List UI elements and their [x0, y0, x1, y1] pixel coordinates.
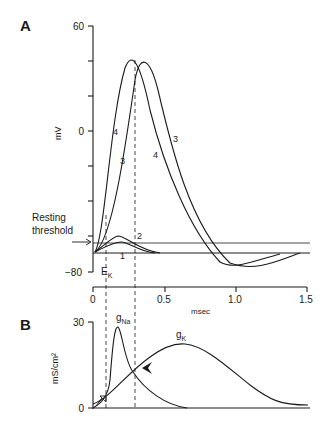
xtick-0.5: 0.5 — [157, 295, 171, 305]
gna-label: gNa — [116, 313, 131, 325]
panel-a-label: A — [20, 17, 31, 34]
curve-1-label: 1 — [120, 252, 125, 261]
filled-arrow-icon — [142, 362, 152, 374]
xtick-1.5: 1.5 — [299, 295, 313, 305]
curve-2 — [95, 236, 160, 253]
curve-3 — [95, 62, 300, 266]
a-ylabel: mV — [53, 127, 63, 141]
resting-label: Resting — [32, 213, 66, 223]
xtick-1.0: 1.0 — [228, 295, 242, 305]
gk-label: gK — [176, 330, 186, 342]
b-ylabel: mS/cm² — [50, 353, 60, 384]
a-ytick-minus80: −80 — [54, 267, 82, 278]
x-axis-label: msec — [191, 308, 210, 316]
curve-4-label-left: 4 — [113, 128, 118, 137]
xtick-0: 0 — [90, 295, 96, 305]
curve-4-label-right: 4 — [153, 151, 158, 160]
b-ytick-30: 30 — [56, 317, 84, 328]
panel-b-label: B — [20, 316, 31, 333]
curve-2-label: 2 — [137, 232, 142, 241]
curve-3-label-right: 3 — [173, 135, 178, 144]
a-ytick-60: 60 — [56, 21, 84, 32]
b-ytick-0: 0 — [56, 403, 84, 414]
curve-3-label-left: 3 — [120, 157, 125, 166]
threshold-label: threshold — [32, 226, 73, 236]
ek-label: EK — [101, 267, 112, 279]
